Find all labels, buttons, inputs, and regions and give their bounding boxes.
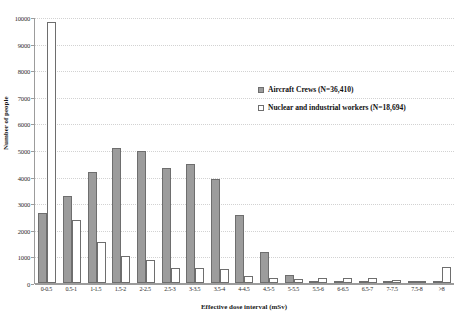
bar-crews — [285, 275, 294, 283]
x-axis-tick-label: 3-3.5 — [182, 286, 207, 302]
bar-nuclear — [171, 268, 180, 283]
bar-nuclear — [294, 279, 303, 283]
x-axis-tick-label: 0.5-1 — [59, 286, 84, 302]
legend-label-nuclear-workers: Nuclear and industrial workers (N=18,694… — [268, 103, 406, 112]
y-axis-tick-mark — [31, 284, 34, 285]
histogram-chart: Number of people 01000200030004000500060… — [0, 0, 466, 325]
bar-group — [60, 18, 85, 283]
bar-nuclear — [121, 256, 130, 283]
bar-group — [257, 18, 282, 283]
bar-nuclear — [442, 267, 451, 283]
bar-series-container — [35, 18, 454, 283]
bar-crews — [334, 281, 343, 283]
bar-crews — [433, 281, 442, 283]
bar-nuclear — [368, 278, 377, 283]
bar-group — [109, 18, 134, 283]
bar-crews — [235, 215, 244, 283]
y-axis-tick-label: 0 — [27, 281, 30, 288]
y-axis-tick-label: 7000 — [18, 94, 30, 101]
bar-nuclear — [269, 278, 278, 283]
bar-group — [84, 18, 109, 283]
bar-nuclear — [343, 278, 352, 283]
y-axis-tick-label: 5000 — [18, 148, 30, 155]
x-axis-title: Effective dose interval (mSv) — [34, 303, 454, 311]
bar-group — [331, 18, 356, 283]
bar-group — [134, 18, 159, 283]
x-axis-tick-label: 7-7.5 — [380, 286, 405, 302]
bar-group — [35, 18, 60, 283]
bar-nuclear — [392, 280, 401, 283]
y-axis-tick-label: 4000 — [18, 174, 30, 181]
bar-group — [281, 18, 306, 283]
x-axis-tick-label: 1.5-2 — [108, 286, 133, 302]
x-axis-tick-label: 3.5-4 — [207, 286, 232, 302]
bar-group — [306, 18, 331, 283]
bar-nuclear — [146, 260, 155, 283]
bar-crews — [137, 151, 146, 283]
chart-legend: Aircraft Crews (N=36,410) Nuclear and in… — [258, 85, 463, 121]
bar-nuclear — [244, 276, 253, 283]
x-axis-tick-label: 7.5-8 — [405, 286, 430, 302]
gridline — [35, 284, 454, 285]
bar-crews — [88, 172, 97, 283]
plot-area — [34, 18, 454, 284]
bar-crews — [359, 281, 368, 283]
x-axis-tick-label: 2.5-3 — [158, 286, 183, 302]
y-axis-tick-label: 3000 — [18, 201, 30, 208]
legend-swatch-icon-aircraft-crews — [258, 87, 264, 93]
legend-item-aircraft-crews: Aircraft Crews (N=36,410) — [258, 85, 463, 94]
bar-group — [429, 18, 454, 283]
x-axis-tick-label: 1-1.5 — [83, 286, 108, 302]
x-axis-tick-labels: 0-0.50.5-11-1.51.5-22-2.52.5-33-3.53.5-4… — [34, 286, 454, 302]
y-axis-tick-label: 6000 — [18, 121, 30, 128]
bar-group — [232, 18, 257, 283]
bar-crews — [383, 281, 392, 283]
bar-crews — [38, 213, 47, 283]
bar-crews — [309, 281, 318, 283]
bar-nuclear — [220, 269, 229, 283]
y-axis-tick-label: 8000 — [18, 68, 30, 75]
y-axis-tick-label: 2000 — [18, 227, 30, 234]
x-axis-tick-label: 4-4.5 — [232, 286, 257, 302]
legend-label-aircraft-crews: Aircraft Crews (N=36,410) — [268, 85, 353, 94]
x-axis-tick-label: 2-2.5 — [133, 286, 158, 302]
y-axis-tick-label: 1000 — [18, 254, 30, 261]
bar-crews — [162, 168, 171, 283]
y-axis-tick-label: 9000 — [18, 41, 30, 48]
bar-nuclear — [47, 22, 56, 283]
bar-nuclear — [195, 268, 204, 283]
bar-group — [158, 18, 183, 283]
bar-nuclear — [72, 220, 81, 283]
y-axis-ticks: 0100020003000400050006000700080009000100… — [0, 18, 34, 284]
bar-nuclear — [318, 278, 327, 283]
x-axis-tick-label: 0-0.5 — [34, 286, 59, 302]
bar-crews — [186, 164, 195, 283]
x-axis-tick-label: 5-5.5 — [281, 286, 306, 302]
bar-nuclear — [417, 281, 426, 283]
x-axis-tick-label: >8 — [429, 286, 454, 302]
bar-crews — [63, 196, 72, 284]
bar-group — [355, 18, 380, 283]
bar-group — [183, 18, 208, 283]
bar-group — [207, 18, 232, 283]
bar-crews — [112, 148, 121, 283]
bar-crews — [211, 179, 220, 283]
bar-crews — [260, 252, 269, 283]
x-axis-tick-label: 6-6.5 — [330, 286, 355, 302]
bar-nuclear — [97, 242, 106, 283]
x-axis-tick-label: 6.5-7 — [355, 286, 380, 302]
bar-crews — [408, 281, 417, 283]
y-axis-tick-label: 10000 — [15, 15, 30, 22]
x-axis-tick-label: 5.5-6 — [306, 286, 331, 302]
legend-item-nuclear-workers: Nuclear and industrial workers (N=18,694… — [258, 103, 463, 112]
legend-swatch-icon-nuclear-workers — [258, 105, 264, 111]
bar-group — [405, 18, 430, 283]
x-axis-tick-label: 4.5-5 — [256, 286, 281, 302]
bar-group — [380, 18, 405, 283]
